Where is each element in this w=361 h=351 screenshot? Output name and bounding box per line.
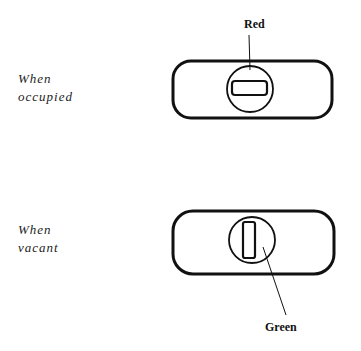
occupied-label-line1: When <box>18 70 73 88</box>
vacant-lock-icon <box>173 211 334 315</box>
red-indicator-label: Red <box>244 17 265 32</box>
vacant-label-line1: When <box>18 221 59 239</box>
occupied-label-line2: occupied <box>18 88 73 106</box>
vacant-label-line2: vacant <box>18 239 59 257</box>
occupied-lock-icon <box>173 35 332 118</box>
vacant-label: When vacant <box>18 221 59 257</box>
occupied-label: When occupied <box>18 70 73 106</box>
lock-diagram <box>0 0 361 351</box>
green-indicator-label: Green <box>265 320 297 335</box>
